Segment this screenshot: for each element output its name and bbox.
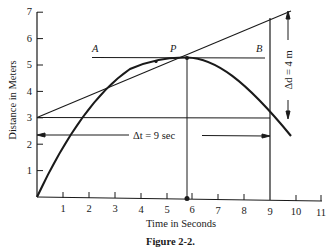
svg-text:6: 6 (27, 33, 32, 44)
figure-caption: Figure 2-2. (146, 236, 195, 247)
chart-svg: 1 2 3 4 5 6 7 1 2 3 4 5 6 (0, 0, 328, 250)
curve-point-marker (154, 60, 157, 63)
svg-text:6: 6 (189, 204, 194, 215)
x-axis (37, 197, 322, 201)
distance-time-curve (37, 57, 291, 197)
svg-text:9: 9 (267, 206, 272, 217)
delta-d-label: Δd = 4 m (283, 50, 294, 89)
y-ticks (37, 12, 43, 170)
svg-text:10: 10 (291, 206, 302, 217)
svg-text:5: 5 (27, 59, 32, 70)
svg-text:3: 3 (27, 112, 32, 123)
label-p: P (169, 43, 177, 54)
y-tick-labels: 1 2 3 4 5 6 7 (27, 6, 33, 176)
label-b: B (256, 43, 263, 54)
svg-text:11: 11 (316, 207, 326, 218)
svg-text:3: 3 (112, 203, 117, 214)
svg-text:4: 4 (27, 86, 33, 97)
x-axis-label: Time in Seconds (146, 218, 216, 229)
y-axis-label-text: Distance in Meters (7, 60, 18, 139)
x-tick-labels: 1 2 3 4 5 6 7 8 9 10 11 (60, 203, 326, 218)
reference-line-d3 (37, 118, 270, 119)
svg-text:7: 7 (215, 205, 220, 216)
figure: 1 2 3 4 5 6 7 1 2 3 4 5 6 (0, 0, 328, 250)
svg-text:8: 8 (241, 205, 246, 216)
svg-text:4: 4 (138, 204, 144, 215)
svg-text:1: 1 (27, 165, 32, 176)
svg-text:5: 5 (164, 204, 169, 215)
axis-marker (185, 196, 190, 201)
svg-text:2: 2 (86, 203, 91, 214)
svg-text:7: 7 (27, 6, 32, 17)
svg-text:1: 1 (60, 203, 65, 214)
label-a: A (91, 43, 99, 54)
delta-t-label: Δt = 9 sec (133, 130, 175, 141)
svg-text:2: 2 (27, 139, 32, 150)
peak-marker (185, 56, 189, 60)
tangent-line (37, 11, 291, 118)
